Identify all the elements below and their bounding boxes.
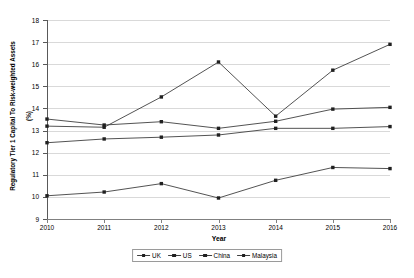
- x-axis-title: Year: [47, 235, 391, 242]
- legend-label: US: [183, 252, 192, 260]
- gridline: [47, 86, 390, 87]
- x-tick-label: 2015: [313, 224, 353, 231]
- data-point: [274, 127, 277, 130]
- data-point: [160, 135, 163, 138]
- y-tick-label: 16: [17, 61, 39, 68]
- data-point: [102, 137, 105, 140]
- gridline: [47, 20, 390, 21]
- data-point: [331, 127, 334, 130]
- gridline: [47, 197, 390, 198]
- data-point: [160, 95, 163, 98]
- y-tick-label: 13: [17, 127, 39, 134]
- data-point: [274, 120, 277, 123]
- y-axis-title: Regulatory Tier 1 Capital To Risk-weight…: [1, 21, 33, 211]
- y-tick-label: 9: [17, 216, 39, 223]
- data-point: [217, 127, 220, 130]
- y-tick-label: 17: [17, 39, 39, 46]
- data-point: [388, 125, 391, 128]
- x-tick-mark: [104, 219, 105, 223]
- legend-marker-icon: [168, 252, 181, 259]
- legend-label: Malaysia: [252, 252, 277, 260]
- x-tick-mark: [276, 219, 277, 223]
- legend-item-china[interactable]: China: [199, 252, 230, 260]
- data-point: [331, 166, 334, 169]
- legend-label: China: [214, 252, 230, 260]
- y-tick-label: 18: [17, 17, 39, 24]
- data-point: [160, 120, 163, 123]
- y-tick-label: 10: [17, 193, 39, 200]
- legend-marker-icon: [199, 252, 212, 259]
- gridline: [47, 108, 390, 109]
- gridline: [47, 153, 390, 154]
- x-tick-mark: [161, 219, 162, 223]
- data-point: [217, 133, 220, 136]
- series-malaysia: [45, 166, 391, 200]
- x-tick-mark: [219, 219, 220, 223]
- x-tick-mark: [390, 219, 391, 223]
- legend-label: UK: [152, 252, 161, 260]
- data-point: [102, 126, 105, 129]
- data-point: [388, 43, 391, 46]
- x-tick-label: 2010: [27, 224, 67, 231]
- y-axis-line: [47, 20, 48, 220]
- data-point: [331, 68, 334, 71]
- series-line: [47, 107, 390, 128]
- y-axis-title-line-1: Regulatory Tier 1 Capital To Risk-weight…: [9, 41, 16, 191]
- data-point: [102, 123, 105, 126]
- data-point: [274, 114, 277, 117]
- line-chart: Regulatory Tier 1 Capital To Risk-weight…: [0, 0, 414, 278]
- legend-marker-icon: [237, 252, 250, 259]
- x-tick-label: 2014: [256, 224, 296, 231]
- x-tick-label: 2012: [141, 224, 181, 231]
- legend-marker-icon: [137, 252, 150, 259]
- x-tick-label: 2013: [199, 224, 239, 231]
- data-point: [217, 60, 220, 63]
- y-axis-title-line-2: (%): [25, 111, 32, 121]
- y-tick-label: 11: [17, 171, 39, 178]
- gridline: [47, 42, 390, 43]
- chart-legend: UKUSChinaMalaysia: [132, 249, 282, 262]
- legend-item-uk[interactable]: UK: [137, 252, 161, 260]
- series-line: [47, 167, 390, 198]
- data-point: [388, 167, 391, 170]
- x-tick-label: 2011: [84, 224, 124, 231]
- y-tick-label: 14: [17, 105, 39, 112]
- gridline: [47, 131, 390, 132]
- gridline: [47, 175, 390, 176]
- x-tick-label: 2016: [370, 224, 410, 231]
- data-point: [160, 182, 163, 185]
- series-us: [45, 125, 391, 145]
- data-point: [102, 190, 105, 193]
- legend-item-malaysia[interactable]: Malaysia: [237, 252, 277, 260]
- x-tick-mark: [333, 219, 334, 223]
- x-tick-mark: [47, 219, 48, 223]
- y-tick-label: 12: [17, 149, 39, 156]
- y-tick-label: 15: [17, 83, 39, 90]
- series-line: [47, 127, 390, 143]
- legend-item-us[interactable]: US: [168, 252, 192, 260]
- data-point: [274, 179, 277, 182]
- gridline: [47, 64, 390, 65]
